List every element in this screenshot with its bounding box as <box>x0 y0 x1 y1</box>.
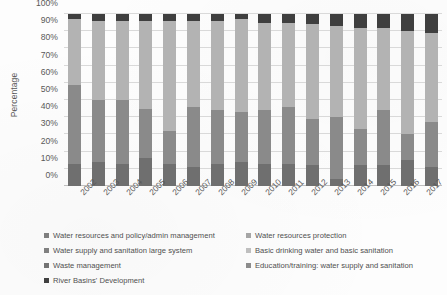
bar-segment <box>282 23 295 107</box>
bar-segment <box>92 21 105 100</box>
legend-label: River Basins' Development <box>53 277 144 285</box>
legend-swatch-icon <box>246 263 251 268</box>
bar-segment <box>211 14 224 21</box>
bar-2005 <box>139 14 152 186</box>
bar-segment <box>139 21 152 109</box>
bar-segment <box>354 28 367 129</box>
bar-segment <box>116 21 129 100</box>
y-axis-tick-label: 70% <box>12 50 58 60</box>
y-axis-tick-label: 80% <box>12 32 58 42</box>
legend-item[interactable]: Water resources protection <box>246 228 440 243</box>
bar-segment <box>139 14 152 21</box>
legend-label: Basic drinking water and basic sanitatio… <box>255 247 393 255</box>
bar-segment <box>163 14 176 21</box>
bar-segment <box>139 109 152 159</box>
y-axis-tick-label: 90% <box>12 15 58 25</box>
legend-label: Water supply and sanitation large system <box>53 247 192 255</box>
bar-segment <box>258 14 271 23</box>
bar-segment <box>163 21 176 131</box>
legend-item[interactable]: River Basins' Development <box>44 273 238 288</box>
bar-2014 <box>354 14 367 186</box>
bar-segment <box>401 14 414 31</box>
bar-segment <box>68 19 81 84</box>
y-axis-tick-label: 100% <box>12 0 58 8</box>
bar-2017 <box>425 14 438 186</box>
legend-swatch-icon <box>246 248 251 253</box>
legend-label: Waste management <box>53 262 121 270</box>
bar-segment <box>92 14 105 21</box>
bar-segment <box>354 129 367 165</box>
bar-2009 <box>235 14 248 186</box>
bar-segment <box>258 110 271 163</box>
bar-segment <box>92 100 105 162</box>
legend-item[interactable]: Water supply and sanitation large system <box>44 243 238 258</box>
bar-segment <box>282 107 295 164</box>
bar-segment <box>187 107 200 167</box>
bar-segment <box>235 19 248 112</box>
bar-segment <box>187 21 200 107</box>
legend-swatch-icon <box>44 248 49 253</box>
bar-segment <box>235 112 248 162</box>
bar-2003 <box>92 14 105 186</box>
bar-segment <box>330 26 343 117</box>
legend-item[interactable]: Water resources and policy/admin managem… <box>44 228 238 243</box>
bar-segment <box>425 122 438 167</box>
legend-item[interactable]: Education/training: water supply and san… <box>246 258 440 273</box>
chart-legend: Water resources and policy/admin managem… <box>44 228 440 290</box>
chart-canvas: Percentage 0%10%20%30%40%50%60%70%80%90%… <box>0 0 447 225</box>
y-axis-tick-label: 0% <box>12 170 58 180</box>
bar-segment <box>330 14 343 26</box>
bar-segment <box>377 14 390 28</box>
y-axis-tick-label: 30% <box>12 118 58 128</box>
bar-segment <box>187 14 200 21</box>
bar-2015 <box>377 14 390 186</box>
bar-segment <box>68 85 81 164</box>
legend-swatch-icon <box>44 233 49 238</box>
bar-segment <box>163 131 176 164</box>
bar-2007 <box>187 14 200 186</box>
bar-segment <box>68 164 81 186</box>
bar-segment <box>425 33 438 122</box>
bar-2004 <box>116 14 129 186</box>
bar-segment <box>330 117 343 179</box>
bar-2012 <box>306 14 319 186</box>
bar-2013 <box>330 14 343 186</box>
legend-item[interactable]: Basic drinking water and basic sanitatio… <box>246 243 440 258</box>
bar-segment <box>282 14 295 23</box>
bar-2002 <box>68 14 81 186</box>
bar-segment <box>377 110 390 165</box>
chart-page: Percentage 0%10%20%30%40%50%60%70%80%90%… <box>0 0 447 295</box>
x-axis-labels: 2002200320042005200620072008200920102011… <box>64 188 442 224</box>
plot-area: 0%10%20%30%40%50%60%70%80%90%100% <box>64 14 442 186</box>
bar-2011 <box>282 14 295 186</box>
y-axis-tick-label: 50% <box>12 84 58 94</box>
bar-group <box>64 14 442 186</box>
bar-2008 <box>211 14 224 186</box>
bar-segment <box>377 28 390 111</box>
bar-2006 <box>163 14 176 186</box>
y-axis-tick-label: 10% <box>12 153 58 163</box>
bar-segment <box>306 14 319 24</box>
y-axis-tick-label: 20% <box>12 136 58 146</box>
bar-segment <box>306 24 319 119</box>
bar-segment <box>258 23 271 111</box>
y-axis-tick-label: 40% <box>12 101 58 111</box>
bar-segment <box>211 21 224 110</box>
bar-segment <box>401 31 414 134</box>
y-axis-tick-label: 60% <box>12 67 58 77</box>
bar-segment <box>354 14 367 28</box>
bar-segment <box>211 110 224 163</box>
legend-swatch-icon <box>44 278 49 283</box>
bar-2016 <box>401 14 414 186</box>
bar-segment <box>306 119 319 165</box>
bar-segment <box>116 14 129 21</box>
legend-swatch-icon <box>246 233 251 238</box>
legend-label: Water resources and policy/admin managem… <box>53 232 215 240</box>
legend-label: Education/training: water supply and san… <box>255 262 413 270</box>
legend-swatch-icon <box>44 263 49 268</box>
legend-item[interactable]: Waste management <box>44 258 238 273</box>
bar-segment <box>425 14 438 33</box>
bar-2010 <box>258 14 271 186</box>
bar-segment <box>401 134 414 160</box>
legend-label: Water resources protection <box>255 232 346 240</box>
